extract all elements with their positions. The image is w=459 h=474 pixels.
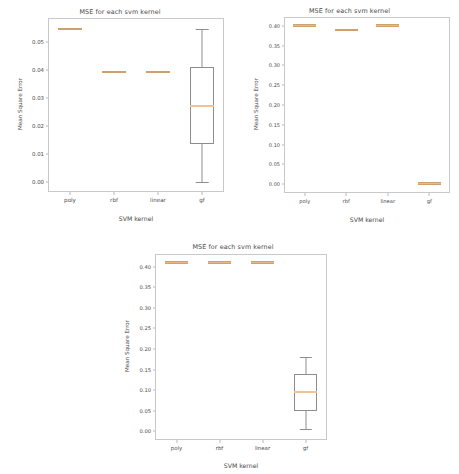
- y-tick-mark: [46, 182, 49, 183]
- chart-title: MSE for each svm kernel: [0, 8, 240, 16]
- y-tick-mark: [46, 97, 49, 98]
- figure-mse-svm-kernel-2: MSE for each svm kernelMean Square Error…: [240, 0, 459, 232]
- y-tick-label: 0.02: [20, 123, 44, 129]
- y-tick-label: 0.05: [256, 161, 280, 167]
- x-tick-label-linear: linear: [380, 198, 395, 204]
- box-median-line: [335, 29, 358, 31]
- y-tick-label: 0.20: [127, 346, 151, 352]
- y-tick-label: 0.15: [256, 122, 280, 128]
- y-tick-mark: [282, 164, 285, 165]
- x-tick-mark: [70, 192, 71, 195]
- box-median-line: [208, 261, 232, 263]
- whisker-upper: [305, 357, 306, 373]
- y-tick-label: 0.35: [256, 43, 280, 49]
- y-tick-mark: [282, 65, 285, 66]
- whisker-lower: [202, 144, 203, 182]
- box-median-line: [418, 182, 441, 184]
- figure-mse-svm-kernel-1: MSE for each svm kernelMean Square Error…: [0, 0, 240, 232]
- y-tick-mark: [153, 349, 156, 350]
- y-tick-mark: [46, 126, 49, 127]
- y-tick-label: 0.04: [20, 67, 44, 73]
- x-axis-label: SVM kernel: [284, 216, 450, 223]
- x-tick-label-rbf: rbf: [110, 197, 118, 203]
- y-tick-mark: [153, 287, 156, 288]
- y-tick-mark: [153, 266, 156, 267]
- y-tick-mark: [153, 369, 156, 370]
- y-tick-label: 0.20: [256, 102, 280, 108]
- box-median-line: [293, 24, 316, 26]
- box-median-line: [102, 71, 126, 73]
- y-tick-label: 0.40: [127, 264, 151, 270]
- x-tick-label-linear: linear: [150, 197, 166, 203]
- x-tick-label-rbf: rbf: [343, 198, 350, 204]
- whisker-lower: [305, 411, 306, 430]
- cap-lower: [196, 182, 209, 183]
- x-tick-label-linear: linear: [255, 445, 270, 451]
- cap-lower: [299, 429, 311, 430]
- box-median-line: [294, 391, 318, 393]
- box-median-line: [376, 24, 399, 26]
- y-tick-mark: [282, 45, 285, 46]
- plot-area: [284, 17, 450, 193]
- x-tick-mark: [304, 193, 305, 196]
- y-tick-label: 0.15: [127, 367, 151, 373]
- x-tick-mark: [219, 440, 220, 443]
- y-tick-label: 0.00: [256, 181, 280, 187]
- x-tick-mark: [305, 440, 306, 443]
- chart-title: MSE for each svm kernel: [103, 243, 363, 251]
- y-tick-label: 0.03: [20, 95, 44, 101]
- y-tick-mark: [46, 41, 49, 42]
- x-tick-label-gf: gf: [199, 197, 205, 203]
- whisker-upper: [202, 29, 203, 67]
- y-tick-mark: [153, 328, 156, 329]
- box-median-line: [58, 28, 82, 30]
- cap-upper: [299, 357, 311, 358]
- y-tick-mark: [153, 307, 156, 308]
- x-tick-mark: [202, 192, 203, 195]
- y-tick-mark: [153, 410, 156, 411]
- y-tick-mark: [282, 184, 285, 185]
- y-tick-label: 0.25: [127, 325, 151, 331]
- x-tick-mark: [114, 192, 115, 195]
- x-tick-label-poly: poly: [171, 445, 182, 451]
- y-tick-label: 0.05: [127, 408, 151, 414]
- y-tick-mark: [46, 154, 49, 155]
- x-tick-label-poly: poly: [64, 197, 76, 203]
- cap-upper: [196, 29, 209, 30]
- x-tick-label-rbf: rbf: [216, 445, 224, 451]
- plot-area: [155, 254, 327, 440]
- y-tick-mark: [282, 124, 285, 125]
- x-axis-label: SVM kernel: [155, 462, 327, 469]
- box-median-line: [165, 261, 189, 263]
- box-median-line: [251, 261, 275, 263]
- y-tick-label: 0.10: [256, 142, 280, 148]
- box-median-line: [190, 105, 214, 107]
- y-tick-label: 0.10: [127, 387, 151, 393]
- y-tick-mark: [282, 105, 285, 106]
- x-tick-mark: [387, 193, 388, 196]
- x-tick-mark: [429, 193, 430, 196]
- y-tick-mark: [46, 69, 49, 70]
- x-tick-mark: [176, 440, 177, 443]
- y-tick-mark: [153, 431, 156, 432]
- x-axis-label: SVM kernel: [48, 215, 224, 222]
- box-median-line: [146, 71, 170, 73]
- x-tick-label-poly: poly: [299, 198, 310, 204]
- chart-title: MSE for each svm kernel: [240, 7, 459, 15]
- x-tick-mark: [158, 192, 159, 195]
- y-tick-label: 0.05: [20, 39, 44, 45]
- y-tick-label: 0.30: [127, 305, 151, 311]
- figure-mse-svm-kernel-3: MSE for each svm kernelMean Square Error…: [103, 234, 363, 474]
- y-tick-mark: [282, 144, 285, 145]
- y-tick-mark: [153, 390, 156, 391]
- y-tick-label: 0.00: [20, 179, 44, 185]
- x-tick-mark: [346, 193, 347, 196]
- y-tick-label: 0.01: [20, 151, 44, 157]
- x-tick-label-gf: gf: [427, 198, 432, 204]
- y-tick-label: 0.00: [127, 428, 151, 434]
- y-tick-label: 0.25: [256, 82, 280, 88]
- y-tick-mark: [282, 25, 285, 26]
- y-tick-mark: [282, 85, 285, 86]
- x-tick-mark: [262, 440, 263, 443]
- x-tick-label-gf: gf: [303, 445, 308, 451]
